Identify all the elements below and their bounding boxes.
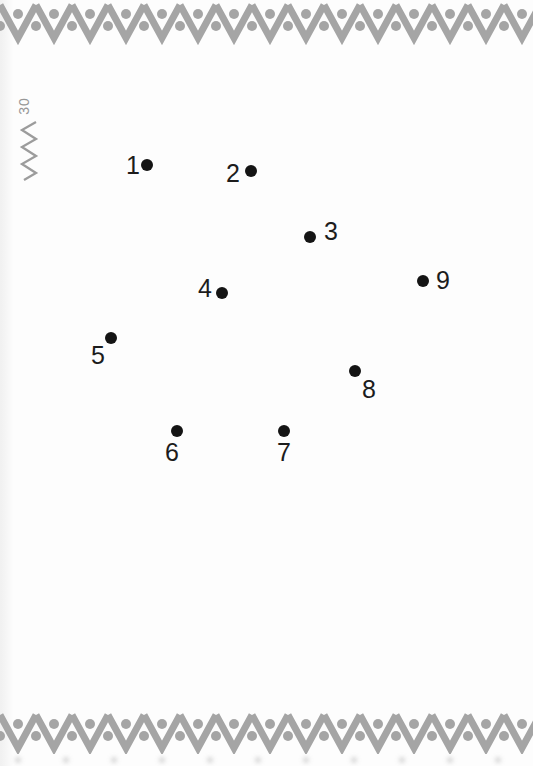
puzzle-dot-4 [216,287,228,299]
activity-book-page: 30 123456789 [0,0,533,766]
dots-layer: 123456789 [0,0,533,766]
puzzle-dot-8 [349,365,361,377]
puzzle-dot-5 [105,332,117,344]
puzzle-dot-2 [245,165,257,177]
dot-number-label-4: 4 [198,276,212,301]
puzzle-dot-9 [417,275,429,287]
dot-number-label-8: 8 [362,377,376,402]
puzzle-dot-1 [141,159,153,171]
dot-number-label-6: 6 [165,440,179,465]
puzzle-dot-6 [171,425,183,437]
dot-number-label-3: 3 [324,219,338,244]
dot-number-label-1: 1 [126,153,140,178]
dot-number-label-7: 7 [277,440,291,465]
dot-number-label-2: 2 [226,161,240,186]
puzzle-dot-7 [278,425,290,437]
puzzle-dot-3 [304,231,316,243]
dot-number-label-5: 5 [91,343,105,368]
dot-number-label-9: 9 [436,268,450,293]
